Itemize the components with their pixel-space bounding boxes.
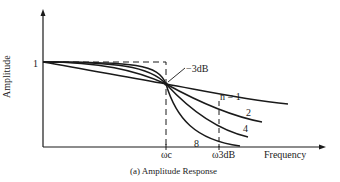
curve-label-n8: 8 xyxy=(194,139,199,149)
y-axis-arrow-icon xyxy=(41,9,46,16)
amplitude-response-figure: Amplitude 1 −3dB n = 1 2 4 8 ωc ω3dB Fre… xyxy=(0,0,340,182)
m3db-leader-line xyxy=(168,68,185,82)
curve-n4 xyxy=(43,62,248,137)
y-axis-label: Amplitude xyxy=(2,55,12,98)
curve-label-n4: 4 xyxy=(243,124,248,134)
wc-label: ωc xyxy=(161,150,172,160)
curve-label-n2: 2 xyxy=(246,108,251,118)
y-tick-1: 1 xyxy=(33,59,38,69)
figure-caption: (a) Amplitude Response xyxy=(130,167,217,176)
w3db-label: ω3dB xyxy=(212,150,235,160)
ideal-response-dashed xyxy=(43,62,166,147)
x-axis-arrow-icon xyxy=(319,145,326,150)
m3db-annotation: −3dB xyxy=(186,64,208,74)
x-axis-label: Frequency xyxy=(264,150,306,160)
curve-label-n1: n = 1 xyxy=(220,92,241,102)
m3db-point xyxy=(164,82,168,86)
